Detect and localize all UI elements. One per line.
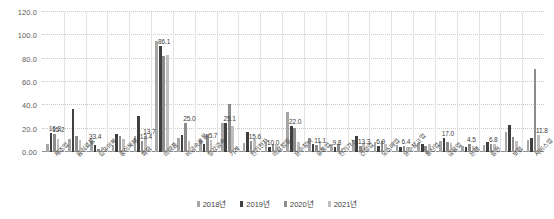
bar — [228, 104, 231, 152]
legend-item[interactable]: 2019년 — [240, 198, 270, 209]
bar — [181, 135, 184, 152]
data-label: 4.5 — [467, 136, 476, 143]
legend-swatch-icon — [284, 201, 287, 207]
legend-swatch-icon — [328, 201, 331, 207]
legend-label: 2021년 — [334, 198, 358, 209]
legend-label: 2019년 — [246, 198, 270, 209]
data-label: 25.1 — [223, 115, 235, 122]
data-label: 25.0 — [183, 115, 195, 122]
legend-item[interactable]: 2020년 — [284, 198, 314, 209]
data-label: 6.9 — [376, 138, 385, 145]
y-tick-label: 20.0 — [22, 124, 37, 133]
data-label: 11.8 — [536, 127, 548, 134]
legend: 2018년2019년2020년2021년 — [0, 198, 554, 209]
bars-layer — [42, 12, 544, 152]
data-label: 9.8 — [333, 139, 342, 146]
data-label: 13.7 — [143, 128, 155, 135]
y-tick-label: 100.0 — [18, 31, 37, 40]
legend-item[interactable]: 2018년 — [197, 198, 227, 209]
bar — [505, 132, 508, 152]
y-tick-label: 0.00 — [22, 148, 37, 157]
bar — [72, 109, 75, 152]
bar — [443, 138, 446, 152]
bar — [50, 133, 53, 152]
data-label: 17.0 — [442, 130, 454, 137]
bar — [483, 145, 486, 152]
bar — [155, 41, 158, 152]
x-axis: 제조업음식료품섬유의복종이목재화학의약품비금속광물철강금속기계전기전자의료정밀운… — [42, 152, 544, 196]
y-axis: 0.0020.040.060.080.0100.0120.0 — [0, 12, 40, 152]
legend-swatch-icon — [197, 201, 200, 207]
data-label: 15.2 — [52, 126, 64, 133]
data-label: 22.0 — [289, 118, 301, 125]
y-tick-label: 120.0 — [18, 8, 37, 17]
data-label: 15.6 — [249, 133, 261, 140]
bar — [159, 46, 162, 152]
bar-chart: 0.0020.040.060.080.0100.0120.0 16.315.23… — [0, 0, 554, 219]
bar — [243, 143, 246, 152]
legend-label: 2018년 — [203, 198, 227, 209]
data-label: 6.8 — [489, 136, 498, 143]
legend-item[interactable]: 2021년 — [328, 198, 358, 209]
plot-area: 16.315.233.413.413.786.125.05.725.115.61… — [42, 12, 544, 152]
bar — [166, 55, 169, 152]
bar — [527, 140, 530, 152]
bar — [534, 69, 537, 152]
bar — [508, 125, 511, 152]
y-tick-label: 40.0 — [22, 101, 37, 110]
y-tick-label: 80.0 — [22, 54, 37, 63]
bar — [224, 123, 227, 152]
legend-label: 2020년 — [290, 198, 314, 209]
y-tick-label: 60.0 — [22, 78, 37, 87]
data-label: 86.1 — [158, 38, 170, 45]
bar — [162, 56, 165, 152]
data-label: 5.7 — [209, 132, 218, 139]
legend-swatch-icon — [240, 201, 243, 207]
bar — [46, 144, 49, 152]
